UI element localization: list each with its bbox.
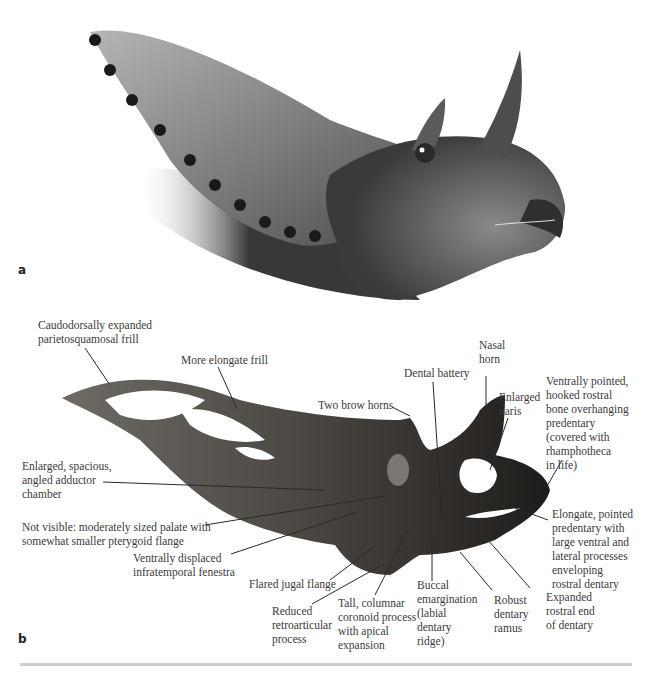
label-robust-dentary-ramus: Robust dentary ramus: [494, 593, 528, 635]
label-parietosquamosal-frill: Caudodorsally expanded parietosquamosal …: [38, 318, 152, 346]
label-two-brow-horns: Two brow horns: [318, 398, 393, 412]
panel-letter-a: a: [18, 263, 26, 277]
label-retroarticular-process: Reduced retroarticular process: [272, 604, 332, 646]
label-flared-jugal-flange: Flared jugal flange: [249, 577, 336, 591]
figure-divider: [20, 663, 632, 666]
label-hooked-rostral-bone: Ventrally pointed, hooked rostral bone o…: [546, 374, 629, 472]
label-enlarged-naris: Enlarged naris: [499, 390, 540, 418]
label-infratemporal-fenestra: Ventrally displaced infratemporal fenest…: [133, 551, 235, 579]
label-adductor-chamber: Enlarged, spacious, angled adductor cham…: [22, 459, 112, 501]
label-expanded-rostral-dentary: Expanded rostral end of dentary: [546, 590, 595, 632]
label-elongate-predentary: Elongate, pointed predentary with large …: [552, 507, 633, 591]
label-nasal-horn: Nasal horn: [479, 338, 505, 366]
label-more-elongate-frill: More elongate frill: [181, 353, 268, 367]
label-coronoid-process: Tall, columnar coronoid process with api…: [338, 596, 416, 652]
label-dental-battery: Dental battery: [404, 366, 469, 380]
label-palate-not-visible: Not visible: moderately sized palate wit…: [22, 520, 211, 548]
label-buccal-emargination: Buccal emargination (labial dentary ridg…: [417, 578, 477, 648]
panel-letter-b: b: [18, 632, 27, 646]
